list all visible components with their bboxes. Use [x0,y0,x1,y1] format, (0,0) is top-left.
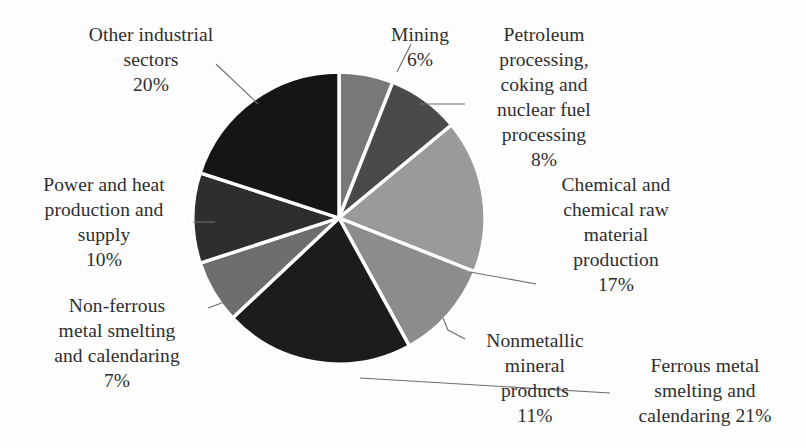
slice-label-nonmetallic-mineral-products: Nonmetallic mineral products 11% [470,328,600,428]
leader-line-chemical [470,272,536,284]
slice-label-petroleum-processing: Petroleum processing, coking and nuclear… [470,22,618,172]
pie-slices-group: Mining 6%Petroleum processing, coking an… [193,72,485,364]
slice-label-chemical-raw-material: Chemical and chemical raw material produ… [540,172,692,297]
slice-label-non-ferrous-metal: Non-ferrous metal smelting and calendari… [24,293,210,393]
slice-label-power-and-heat: Power and heat production and supply 10% [14,172,194,272]
pie-chart-figure: Mining 6%Petroleum processing, coking an… [0,0,806,448]
slice-label-other-industrial-sectors: Other industrial sectors 20% [42,22,260,97]
slice-label-mining: Mining 6% [372,22,468,72]
leader-line-nonmetallic [443,318,465,339]
slice-label-ferrous-metal: Ferrous metal smelting and calendaring 2… [612,353,798,428]
